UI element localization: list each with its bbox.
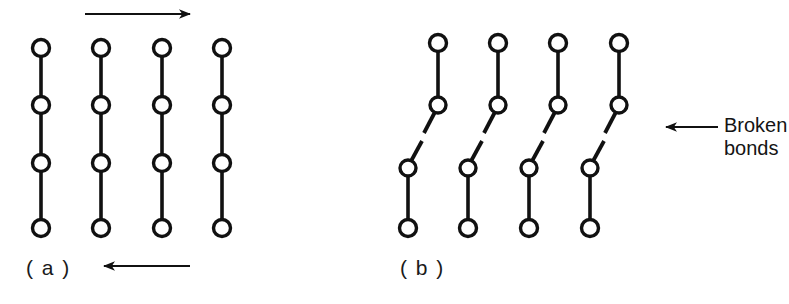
atom bbox=[400, 160, 416, 176]
lower-fragment-1 bbox=[400, 141, 423, 237]
chain-3 bbox=[154, 40, 171, 237]
upper-fragment-2 bbox=[484, 35, 507, 134]
lower-fragment-4 bbox=[582, 141, 605, 237]
atom bbox=[33, 155, 50, 172]
upper-fragment-1 bbox=[424, 35, 447, 134]
atom bbox=[93, 220, 110, 237]
atom bbox=[490, 35, 507, 52]
diagram-canvas bbox=[0, 0, 789, 304]
chain-1 bbox=[33, 40, 50, 237]
atom bbox=[93, 97, 110, 114]
atom bbox=[430, 97, 446, 113]
atom bbox=[214, 40, 231, 57]
atom bbox=[460, 160, 476, 176]
atom bbox=[33, 40, 50, 57]
broken-bonds-label: Broken bonds bbox=[724, 114, 787, 160]
atom bbox=[214, 220, 231, 237]
atom bbox=[93, 155, 110, 172]
atom bbox=[33, 97, 50, 114]
atom bbox=[33, 220, 50, 237]
chain-4 bbox=[214, 40, 231, 237]
panel-a-label: ( a ) bbox=[26, 256, 71, 280]
atom bbox=[582, 220, 599, 237]
panel-a-group bbox=[33, 14, 231, 266]
upper-fragment-4 bbox=[605, 35, 628, 134]
atom bbox=[521, 160, 537, 176]
panel-b-group bbox=[400, 35, 719, 237]
atom bbox=[154, 155, 171, 172]
atom bbox=[611, 97, 627, 113]
lower-fragment-3 bbox=[521, 141, 544, 237]
atom bbox=[154, 220, 171, 237]
atom bbox=[611, 35, 628, 52]
atom bbox=[550, 97, 566, 113]
atom bbox=[521, 220, 538, 237]
chain-2 bbox=[93, 40, 110, 237]
lower-fragment-2 bbox=[460, 141, 483, 237]
broken-bonds-line-1: Broken bbox=[724, 114, 787, 137]
atom bbox=[460, 220, 477, 237]
atom bbox=[490, 97, 506, 113]
upper-fragment-3 bbox=[544, 35, 567, 134]
broken-bonds-line-2: bonds bbox=[724, 137, 787, 160]
atom bbox=[550, 35, 567, 52]
atom bbox=[154, 40, 171, 57]
atom bbox=[93, 40, 110, 57]
atom bbox=[214, 97, 231, 114]
atom bbox=[154, 97, 171, 114]
panel-b-label: ( b ) bbox=[400, 256, 445, 280]
atom bbox=[430, 35, 447, 52]
figure-container: ( a ) ( b ) Broken bonds bbox=[0, 0, 789, 304]
atom bbox=[582, 160, 598, 176]
atom bbox=[214, 155, 231, 172]
atom bbox=[400, 220, 417, 237]
